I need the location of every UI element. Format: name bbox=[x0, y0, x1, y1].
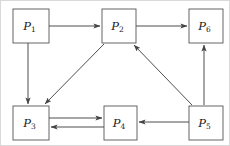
node-p5[interactable]: P5 bbox=[189, 106, 223, 140]
node-p1[interactable]: P1 bbox=[13, 9, 49, 43]
node-label-sub-p4: 4 bbox=[120, 121, 125, 130]
nodes-layer: P1P2P6P3P4P5 bbox=[13, 9, 223, 140]
process-graph-figure: P1P2P6P3P4P5 bbox=[0, 0, 230, 146]
node-label-sub-p1: 1 bbox=[31, 24, 36, 33]
node-p2[interactable]: P2 bbox=[102, 9, 136, 43]
node-label-sub-p6: 6 bbox=[206, 24, 211, 33]
node-label-sub-p5: 5 bbox=[206, 121, 211, 130]
node-label-sub-p3: 3 bbox=[31, 121, 36, 130]
edge-p2-to-p3 bbox=[45, 44, 104, 104]
node-p4[interactable]: P4 bbox=[104, 106, 137, 140]
node-label-sub-p2: 2 bbox=[119, 24, 124, 33]
node-p3[interactable]: P3 bbox=[13, 106, 49, 140]
graph-canvas: P1P2P6P3P4P5 bbox=[1, 1, 230, 146]
edge-p5-to-p2 bbox=[134, 45, 192, 105]
node-p6[interactable]: P6 bbox=[189, 9, 223, 43]
